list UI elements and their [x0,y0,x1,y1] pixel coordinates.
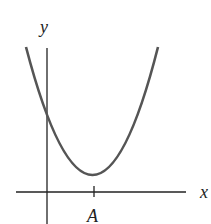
vertex-x-label: A [86,206,99,224]
y-axis-label: y [38,17,48,37]
parabola-curve [26,47,158,175]
x-axis-label: x [199,182,208,202]
parabola-diagram: y x A [0,0,211,224]
